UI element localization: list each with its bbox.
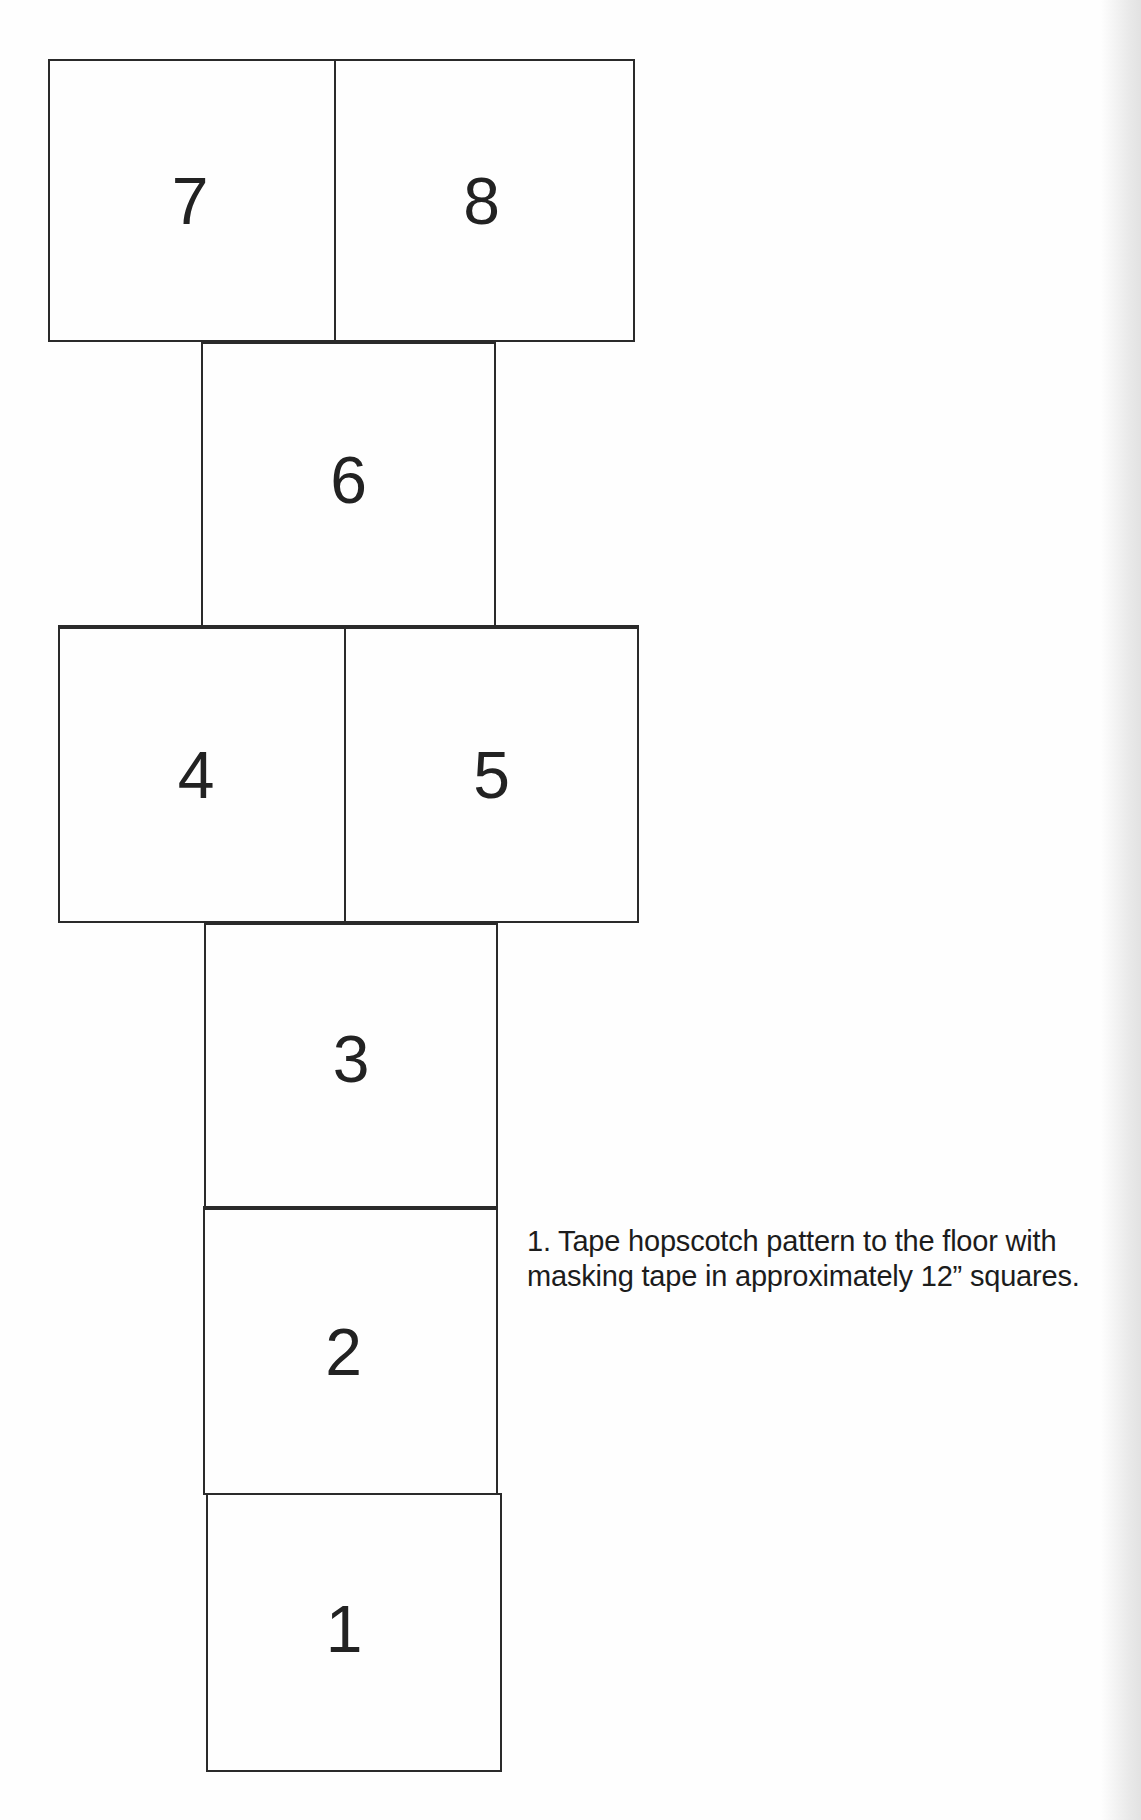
square-1: 1 bbox=[206, 1493, 502, 1772]
square-8: 8 bbox=[334, 59, 635, 342]
square-4: 4 bbox=[58, 625, 346, 923]
square-label: 6 bbox=[330, 447, 367, 513]
square-2: 2 bbox=[203, 1206, 498, 1495]
square-label: 3 bbox=[333, 1026, 370, 1092]
square-label: 8 bbox=[463, 168, 500, 234]
square-label: 7 bbox=[172, 168, 209, 234]
instruction-text: 1. Tape hopscotch pattern to the floor w… bbox=[527, 1224, 1107, 1294]
square-7: 7 bbox=[48, 59, 336, 342]
square-label: 4 bbox=[178, 742, 215, 808]
square-5: 5 bbox=[344, 625, 639, 923]
square-6: 6 bbox=[201, 340, 496, 627]
scan-edge-shadow bbox=[1101, 0, 1141, 1820]
square-label: 2 bbox=[325, 1319, 362, 1385]
square-3: 3 bbox=[204, 921, 498, 1208]
square-label: 5 bbox=[473, 742, 510, 808]
square-label: 1 bbox=[326, 1596, 363, 1662]
